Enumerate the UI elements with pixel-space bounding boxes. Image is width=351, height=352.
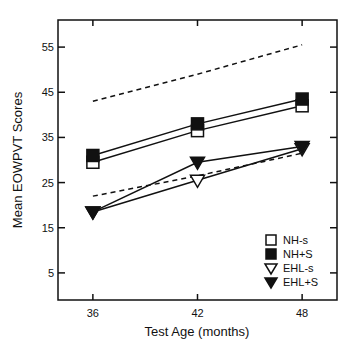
point-EHL+S [86, 207, 100, 219]
legend-label: EHL+S [283, 276, 318, 288]
legend-marker-NH+S [266, 249, 276, 259]
point-NH+S [87, 149, 99, 161]
y-tick-label: 5 [48, 267, 54, 279]
x-tick-label: 42 [191, 307, 203, 319]
x-axis-title: Test Age (months) [145, 324, 250, 339]
legend-marker-NH-s [266, 235, 276, 245]
legend-marker-EHL-s [265, 264, 277, 274]
chart: 364248 51525354555 Test Age (months) Mea… [0, 0, 351, 352]
legend-label: EHL-s [283, 262, 314, 274]
y-tick-label: 45 [42, 86, 54, 98]
legend-marker-EHL+S [265, 278, 277, 288]
y-axis-title: Mean EOWPVT Scores [10, 91, 25, 228]
series-lines [93, 99, 302, 212]
y-tick-label: 15 [42, 222, 54, 234]
legend: NH-sNH+SEHL-sEHL+S [265, 234, 318, 288]
y-tick-label: 25 [42, 177, 54, 189]
upper-dashed-line [93, 45, 302, 101]
y-tick-label: 55 [42, 41, 54, 53]
x-tick-label: 36 [87, 307, 99, 319]
point-NH+S [192, 118, 204, 130]
x-tick-label: 48 [296, 307, 308, 319]
y-tick-label: 35 [42, 131, 54, 143]
point-NH+S [296, 93, 308, 105]
legend-label: NH-s [283, 234, 309, 246]
legend-label: NH+S [283, 248, 313, 260]
point-EHL+S [191, 157, 205, 169]
